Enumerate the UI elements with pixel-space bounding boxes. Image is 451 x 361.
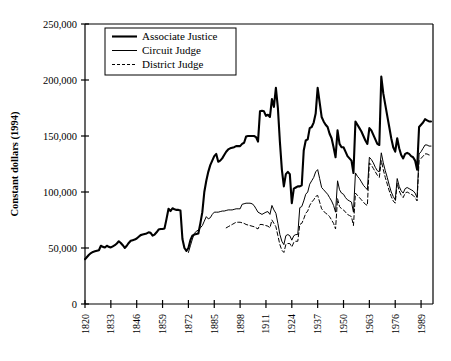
legend-label: Circuit Judge (142, 44, 201, 56)
series-line (188, 145, 431, 253)
x-tick-label: 1937 (312, 314, 323, 334)
y-tick-label: 50,000 (48, 243, 77, 254)
series-line (85, 77, 431, 260)
y-axis-title: Constant dollars (1994) (9, 111, 21, 217)
y-axis-title-text: Constant dollars (1994) (9, 111, 21, 217)
y-tick-label: 250,000 (43, 19, 77, 30)
y-tick-label: 100,000 (43, 187, 77, 198)
x-tick-label: 1898 (235, 314, 246, 334)
x-tick-label: 1911 (260, 314, 271, 334)
x-tick-label: 1846 (131, 314, 142, 334)
y-tick-label: 200,000 (43, 75, 77, 86)
x-tick-label: 1976 (390, 314, 401, 334)
x-tick-label: 1963 (364, 314, 375, 334)
data-series-group (85, 77, 431, 260)
x-tick-label: 1859 (157, 314, 168, 334)
x-tick-label: 1885 (209, 314, 220, 334)
x-tick-label: 1872 (183, 314, 194, 334)
x-tick-label: 1833 (105, 314, 116, 334)
y-tick-label: 150,000 (43, 131, 77, 142)
y-tick-label: 0 (72, 299, 77, 310)
chart-legend: Associate JusticeCircuit JudgeDistrict J… (105, 28, 236, 75)
legend-label: District Judge (142, 58, 204, 70)
series-line (226, 154, 431, 253)
x-axis-ticks: 1820183318461859187218851898191119241937… (80, 300, 427, 334)
legend-label: Associate Justice (142, 30, 218, 42)
chart-container: Constant dollars (1994) 050,000100,00015… (0, 0, 451, 361)
x-tick-label: 1820 (80, 314, 91, 334)
x-tick-label: 1950 (338, 314, 349, 334)
line-chart: Constant dollars (1994) 050,000100,00015… (0, 0, 451, 361)
x-tick-label: 1989 (416, 314, 427, 334)
x-tick-label: 1924 (286, 314, 297, 334)
y-axis-ticks: 050,000100,000150,000200,000250,000 (43, 19, 89, 310)
